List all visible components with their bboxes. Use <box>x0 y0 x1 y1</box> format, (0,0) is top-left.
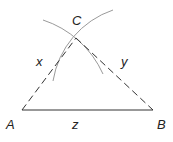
side-label-x: x <box>35 54 43 69</box>
side-label-y: y <box>120 54 129 69</box>
triangle-construction-diagram: C x y A z B <box>0 0 173 142</box>
arc-from-b <box>43 20 103 74</box>
point-label-c: C <box>72 13 82 28</box>
point-label-a: A <box>5 117 15 132</box>
side-x <box>22 38 76 110</box>
arc-from-a <box>53 10 113 81</box>
side-y <box>76 38 153 110</box>
side-label-z: z <box>71 117 79 132</box>
point-label-b: B <box>157 117 166 132</box>
